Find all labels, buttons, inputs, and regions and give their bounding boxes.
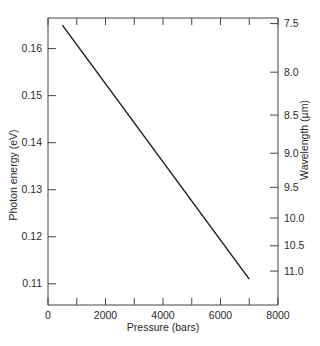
y-tick-label: 0.13: [22, 183, 43, 195]
y2-tick-label: 9.5: [284, 181, 299, 193]
y2-tick-label: 8.5: [284, 109, 299, 121]
x-tick-label: 2000: [94, 309, 118, 321]
y2-axis-label: Wavelength (µm): [298, 100, 310, 180]
y-axis-ticks: 0.110.120.130.140.150.16: [22, 42, 56, 289]
y2-tick-label: 7.5: [284, 17, 299, 29]
y-tick-label: 0.12: [22, 230, 43, 242]
x-tick-label: 6000: [209, 309, 233, 321]
y-tick-label: 0.16: [22, 42, 43, 54]
y2-tick-label: 11.0: [284, 265, 304, 277]
y-tick-label: 0.15: [22, 89, 43, 101]
x-axis-ticks: 02000400060008000: [45, 18, 290, 321]
data-series: [62, 25, 249, 279]
y-tick-label: 0.14: [22, 136, 43, 148]
y2-tick-label: 9.0: [284, 147, 299, 159]
x-tick-label: 8000: [266, 309, 290, 321]
x-axis-label: Pressure (bars): [127, 321, 199, 333]
series-line: [62, 25, 249, 279]
y-axis-label: Photon energy (eV): [7, 129, 19, 220]
y2-tick-label: 10.5: [284, 239, 305, 251]
y-tick-label: 0.11: [22, 277, 42, 289]
y2-tick-label: 10.0: [284, 212, 305, 224]
chart: 02000400060008000 0.110.120.130.140.150.…: [0, 0, 320, 346]
x-tick-label: 4000: [151, 309, 175, 321]
x-tick-label: 0: [45, 309, 51, 321]
y2-tick-label: 8.0: [284, 66, 299, 78]
